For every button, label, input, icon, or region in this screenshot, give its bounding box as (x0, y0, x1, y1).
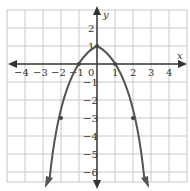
y-axis-label: y (102, 9, 109, 20)
point-neg2-neg3 (59, 116, 63, 120)
point-1-0 (113, 62, 117, 66)
x-axis-right-arrow-icon (178, 60, 187, 68)
y-tick-label: −2 (83, 95, 98, 106)
y-tick-label: −3 (83, 113, 98, 124)
point-2-neg3 (131, 116, 135, 120)
x-tick-label: −3 (33, 67, 48, 78)
y-tick-label: −1 (83, 77, 98, 88)
x-tick-label: 4 (166, 67, 172, 78)
x-tick-label: 2 (130, 67, 136, 78)
y-tick-label: −4 (83, 131, 98, 142)
point-vertex-0-1 (95, 44, 99, 48)
point-neg1-0 (77, 62, 81, 66)
x-tick-label: −4 (14, 67, 29, 78)
x-tick-label: −2 (51, 67, 66, 78)
x-tick-label: 3 (148, 67, 154, 78)
y-tick-label: −6 (83, 167, 98, 178)
x-axis-label: x (177, 50, 183, 61)
y-tick-label: 2 (88, 23, 94, 34)
coordinate-plane: y x −4 −3 −2 −1 0 1 2 3 4 2 1 −1 −2 −3 −… (0, 0, 190, 191)
y-axis-down-arrow-icon (93, 180, 101, 189)
y-tick-label: −5 (83, 149, 98, 160)
